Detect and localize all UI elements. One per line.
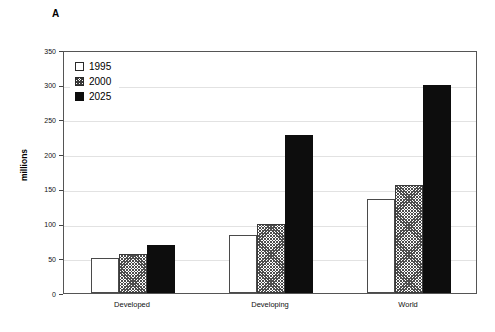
panel-label: A — [52, 8, 60, 19]
y-axis-tick — [59, 294, 63, 295]
legend-swatch-2000 — [75, 77, 84, 86]
plot-area — [63, 51, 477, 294]
x-axis-label-developing: Developing — [230, 300, 310, 309]
x-axis-label-developed: Developed — [92, 300, 172, 309]
chart-figure: A millions 050100150200250300350 Develop… — [0, 0, 495, 332]
legend-item-1995: 1995 — [75, 59, 111, 74]
legend-item-2025: 2025 — [75, 89, 111, 104]
bar-world-2000 — [395, 185, 423, 293]
legend-item-2000: 2000 — [75, 74, 111, 89]
bars-layer — [64, 52, 476, 293]
x-axis-label-world: World — [368, 300, 448, 309]
bar-developing-2000 — [257, 224, 285, 293]
y-axis-tick-label: 200 — [30, 152, 56, 159]
legend-swatch-1995 — [75, 62, 84, 71]
bar-developed-2000 — [119, 254, 147, 293]
bar-developing-1995 — [229, 235, 257, 293]
legend-swatch-2025 — [75, 92, 84, 101]
y-axis-tick-label: 250 — [30, 117, 56, 124]
y-axis-tick-label: 50 — [30, 256, 56, 263]
bar-world-1995 — [367, 199, 395, 293]
bar-world-2025 — [423, 85, 451, 293]
bar-developing-2025 — [285, 135, 313, 293]
legend: 199520002025 — [70, 55, 119, 108]
y-axis-tick-label: 300 — [30, 82, 56, 89]
y-axis-tick-label: 350 — [30, 48, 56, 55]
legend-label-2025: 2025 — [89, 92, 111, 102]
bar-developed-1995 — [91, 258, 119, 293]
y-axis-tick-label: 0 — [30, 291, 56, 298]
y-axis-tick-label: 100 — [30, 221, 56, 228]
bar-developed-2025 — [147, 245, 175, 293]
legend-label-2000: 2000 — [89, 77, 111, 87]
legend-label-1995: 1995 — [89, 62, 111, 72]
y-axis-tick-label: 150 — [30, 186, 56, 193]
